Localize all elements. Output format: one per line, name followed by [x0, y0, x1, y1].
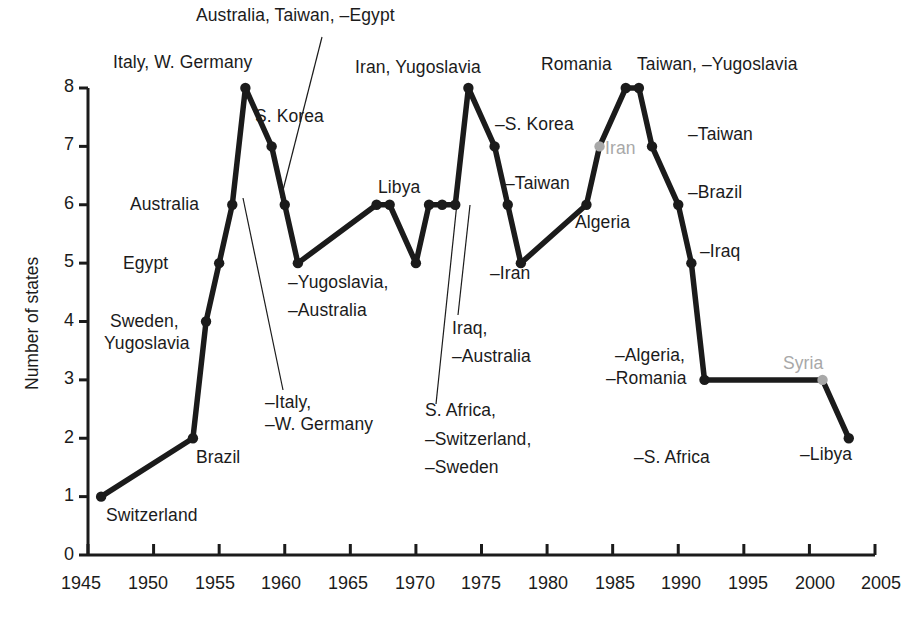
annotation-minus-iraq: –Iraq [700, 241, 740, 262]
annotation-minus-brazil: –Brazil [688, 182, 742, 203]
x-tick-label-1945: 1945 [61, 573, 101, 594]
y-axis-title: Number of states [22, 257, 43, 390]
annotation-australia-taiwan-egypt: Australia, Taiwan, –Egypt [196, 5, 395, 26]
y-tick-label-0: 0 [48, 544, 74, 565]
annotation-minus-skorea: –S. Korea [495, 114, 574, 135]
y-tick-label-7: 7 [48, 134, 74, 155]
x-tick-label-1965: 1965 [328, 573, 368, 594]
annotation-iraq-line2: –Australia [452, 346, 531, 367]
annotation-minus-iran-1978: –Iran [490, 263, 530, 284]
x-tick-label-1960: 1960 [261, 573, 301, 594]
y-tick-label-8: 8 [48, 76, 74, 97]
annotation-algeria: Algeria [575, 212, 630, 233]
annotation-skorea-1959: S. Korea [255, 106, 324, 127]
annotation-iran-1984: Iran [605, 138, 636, 159]
annotation-iran-yugoslavia: Iran, Yugoslavia [355, 57, 481, 78]
annotation-minus-safrica: –S. Africa [634, 447, 710, 468]
annotation-minus-taiwan-1988: –Taiwan [688, 124, 753, 145]
annotation-sweden-line2: Yugoslavia [104, 333, 190, 354]
annotation-minus-algeria-line1: –Algeria, [615, 345, 685, 366]
annotation-minus-italy-line1: –Italy, [265, 392, 311, 413]
x-tick-label-1970: 1970 [395, 573, 435, 594]
x-tick-label-1975: 1975 [461, 573, 501, 594]
x-tick-label-1985: 1985 [595, 573, 635, 594]
x-tick-label-1995: 1995 [728, 573, 768, 594]
annotation-safrica-line1: S. Africa, [425, 400, 496, 421]
annotation-minus-taiwan-1977: –Taiwan [505, 173, 570, 194]
x-tick-label-1950: 1950 [128, 573, 168, 594]
x-tick-label-1980: 1980 [528, 573, 568, 594]
x-tick-label-2005: 2005 [861, 573, 901, 594]
y-tick-label-4: 4 [48, 310, 74, 331]
y-tick-label-6: 6 [48, 193, 74, 214]
y-tick-label-5: 5 [48, 251, 74, 272]
annotation-minus-italy-line2: –W. Germany [265, 414, 373, 435]
annotation-brazil-1953: Brazil [196, 447, 240, 468]
annotation-egypt: Egypt [123, 253, 168, 274]
annotation-minus-libya: –Libya [800, 444, 852, 465]
x-tick-label-2000: 2000 [795, 573, 835, 594]
annotation-minus-algeria-line2: –Romania [606, 368, 687, 389]
annotation-italy-wgermany: Italy, W. Germany [113, 52, 252, 73]
annotation-iraq-line1: Iraq, [452, 318, 488, 339]
annotation-minus-yugoslavia-line2: –Australia [288, 300, 367, 321]
annotation-taiwan-minus-yugoslavia: Taiwan, –Yugoslavia [637, 54, 797, 75]
nuclear-weapons-programs-chart: Number of states 8 7 6 5 4 3 2 1 0 1945 … [0, 0, 907, 622]
annotation-switzerland: Switzerland [106, 505, 198, 526]
y-tick-label-2: 2 [48, 427, 74, 448]
annotation-romania: Romania [541, 54, 612, 75]
annotation-safrica-line2: –Switzerland, [425, 429, 531, 450]
annotation-sweden-line1: Sweden, [110, 311, 179, 332]
x-tick-label-1955: 1955 [195, 573, 235, 594]
annotation-safrica-line3: –Sweden [425, 457, 499, 478]
y-tick-label-3: 3 [48, 368, 74, 389]
annotation-australia-1956: Australia [130, 194, 199, 215]
annotation-libya-1967: Libya [378, 177, 420, 198]
annotation-syria: Syria [783, 353, 823, 374]
annotation-minus-yugoslavia-line1: –Yugoslavia, [288, 272, 388, 293]
y-tick-label-1: 1 [48, 485, 74, 506]
x-tick-label-1990: 1990 [661, 573, 701, 594]
